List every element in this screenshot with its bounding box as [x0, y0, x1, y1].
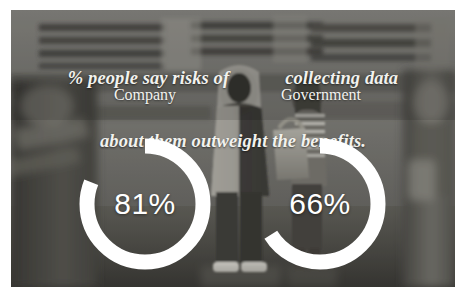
infographic-overlay: % people say risks ofcollecting data abo… — [11, 10, 455, 287]
background-photo: % people say risks ofcollecting data abo… — [11, 10, 455, 287]
headline-line-1-after-gap: collecting data — [285, 68, 398, 88]
headline-line-1-before-gap: % people say risks of — [68, 68, 229, 88]
donut-chart-company: 81% — [77, 136, 213, 272]
donut-label-company: Company — [75, 86, 215, 104]
donut-value-government: 66% — [252, 136, 388, 272]
donut-label-government: Government — [251, 86, 391, 104]
infographic-card: % people say risks ofcollecting data abo… — [0, 0, 466, 308]
donut-value-company: 81% — [77, 136, 213, 272]
donut-chart-government: 66% — [252, 136, 388, 272]
